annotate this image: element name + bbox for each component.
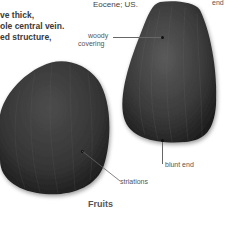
label-woody-covering-line-1: woody [88, 32, 108, 40]
leader-line-woody-covering [113, 37, 162, 38]
section-heading-fruits: Fruits [88, 199, 113, 209]
marker-striations [81, 150, 84, 153]
leader-line-blunt-end [162, 140, 163, 164]
label-blunt-end: blunt end [165, 161, 194, 169]
marker-blunt-end [161, 139, 164, 142]
marker-woody-covering [161, 36, 164, 39]
label-woody-covering-line-2: covering [78, 40, 104, 48]
label-striations: striations [120, 178, 148, 186]
